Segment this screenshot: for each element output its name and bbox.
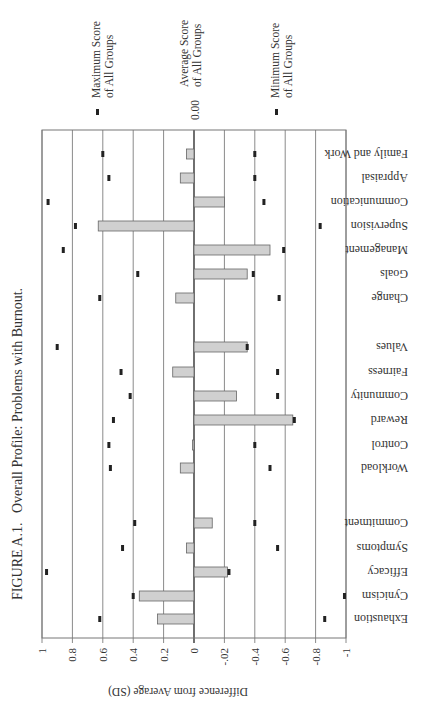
tick-label: -0.6 — [279, 648, 291, 666]
tick-label: -0.4 — [249, 648, 261, 666]
min-marker — [253, 442, 256, 448]
max-marker — [133, 520, 136, 526]
min-marker — [319, 223, 322, 229]
category-label: Community — [351, 389, 408, 403]
min-marker — [269, 465, 272, 471]
category-label: Communication — [331, 195, 408, 209]
category-labels: ExhaustionCynicismEfficacySymptomsCommit… — [325, 147, 408, 626]
tick-label: 0.8 — [66, 648, 78, 662]
min-marker — [253, 175, 256, 181]
bar-values — [194, 342, 247, 352]
max-marker — [132, 593, 135, 599]
bar-series — [98, 149, 293, 624]
min-marker — [278, 295, 281, 301]
axis-tick-labels: 10.80.60.40.20-.02-0.4-0.6-0.8-1 — [36, 648, 352, 666]
marker-series — [45, 151, 346, 622]
legend-max-marker — [96, 109, 99, 115]
legend-avg-line2: of All Groups — [191, 23, 204, 87]
bar-exhaustion — [158, 614, 194, 624]
max-marker — [98, 295, 101, 301]
bar-management — [194, 245, 270, 255]
min-marker — [253, 520, 256, 526]
bar-communication — [194, 197, 224, 207]
legend-avg-value: 0.00 — [189, 100, 201, 120]
tick-label: 0.4 — [127, 648, 139, 662]
min-marker — [262, 199, 265, 205]
tick-label: -1 — [340, 648, 352, 657]
tick-label: 1 — [36, 648, 48, 654]
bar-cynicism — [139, 591, 194, 601]
max-marker — [101, 151, 104, 157]
max-marker — [112, 417, 115, 423]
tick-label: 0 — [188, 648, 200, 654]
figure-caption: FIGURE A.1. Overall Profile: Problems wi… — [10, 288, 25, 600]
max-marker — [129, 393, 132, 399]
category-label: Values — [376, 340, 408, 354]
min-marker — [253, 151, 256, 157]
bar-goals — [194, 269, 247, 279]
legend-min-marker — [275, 109, 278, 115]
min-marker — [252, 271, 255, 277]
category-label: Management — [345, 243, 408, 257]
svg-text:FIGURE A.1. Overall Prof: FIGURE A.1. Overall Profile: Problems wi… — [10, 288, 25, 600]
category-label: Efficacy — [368, 565, 408, 579]
max-marker — [109, 465, 112, 471]
figure-label: FIGURE A.1. — [10, 523, 25, 600]
min-marker — [282, 247, 285, 253]
max-marker — [107, 442, 110, 448]
bar-appraisal — [180, 173, 194, 183]
category-label: Change — [371, 291, 408, 305]
max-marker — [45, 569, 48, 575]
category-label: Symptoms — [356, 541, 408, 555]
max-marker — [136, 271, 139, 277]
legend: Maximum Score of All Groups 0.00 Average… — [90, 20, 295, 120]
bar-family-and-work — [186, 149, 194, 159]
max-marker — [121, 545, 124, 551]
min-marker — [276, 369, 279, 375]
min-marker — [227, 569, 230, 575]
min-marker — [276, 545, 279, 551]
min-marker — [343, 593, 346, 599]
bar-control — [192, 440, 194, 450]
bar-supervision — [98, 221, 194, 231]
bar-fairness — [173, 367, 194, 377]
min-marker — [276, 393, 279, 399]
burnout-profile-chart: ExhaustionCynicismEfficacySymptomsCommit… — [0, 0, 442, 702]
legend-min-line2: of All Groups — [282, 34, 295, 98]
max-marker — [56, 344, 59, 350]
tick-label: -0.8 — [310, 648, 322, 666]
max-marker — [47, 199, 50, 205]
bar-workload — [180, 463, 194, 473]
category-label: Family and Work — [325, 147, 408, 161]
category-label: Appraisal — [361, 171, 408, 185]
max-marker — [98, 616, 101, 622]
bar-reward — [194, 415, 293, 425]
figure-title: Overall Profile: Problems with Burnout. — [10, 288, 25, 513]
category-label: Cynicism — [361, 589, 408, 603]
legend-avg-line1: Average Score — [178, 20, 191, 87]
axis-label: Difference from Average (SD) — [108, 685, 248, 698]
max-marker — [120, 369, 123, 375]
category-label: Goals — [380, 267, 408, 281]
min-marker — [246, 344, 249, 350]
bar-efficacy — [194, 567, 227, 577]
category-label: Control — [371, 438, 408, 452]
bar-commitment — [194, 518, 212, 528]
legend-min-line1: Minimum Score — [269, 23, 281, 98]
max-marker — [74, 223, 77, 229]
legend-max-line2: of All Groups — [103, 34, 116, 98]
category-label: Workload — [361, 461, 408, 475]
category-label: Exhaustion — [354, 612, 408, 626]
tick-label: -.02 — [218, 648, 230, 665]
min-marker — [293, 417, 296, 423]
category-label: Reward — [371, 413, 408, 427]
legend-max-line1: Maximum Score — [90, 21, 102, 98]
max-marker — [62, 247, 65, 253]
category-label: Supervision — [351, 219, 408, 233]
min-marker — [323, 616, 326, 622]
bar-community — [194, 391, 237, 401]
bar-symptoms — [186, 543, 194, 553]
category-label: Fairness — [368, 365, 408, 379]
tick-label: 0.2 — [158, 648, 170, 662]
category-label: Commitment — [344, 516, 408, 530]
